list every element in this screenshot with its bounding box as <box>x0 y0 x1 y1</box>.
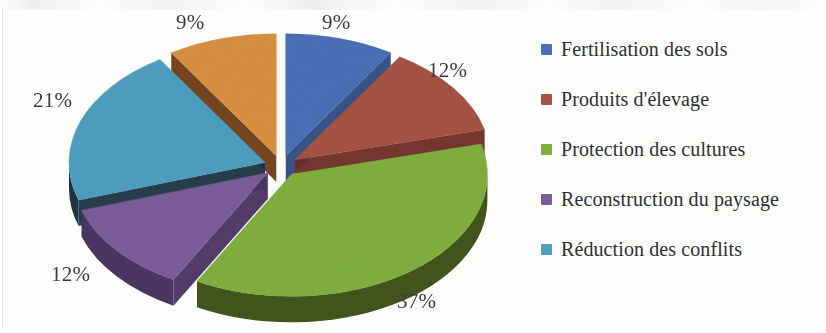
pct-label-cyan: 21% <box>33 88 72 113</box>
chart-legend: Fertilisation des solsProduits d'élevage… <box>541 24 826 274</box>
legend-item[interactable]: Réduction des conflits <box>541 224 826 274</box>
legend-swatch-icon <box>541 144 552 155</box>
pct-label-blue: 9% <box>322 10 350 35</box>
pct-label-green: 37% <box>397 289 436 314</box>
legend-item-label: Reconstruction du paysage <box>561 188 779 211</box>
legend-item-label: Produits d'élevage <box>561 88 709 111</box>
legend-item[interactable]: Fertilisation des sols <box>541 24 826 74</box>
legend-item-label: Protection des cultures <box>561 138 745 161</box>
legend-swatch-icon <box>541 44 552 55</box>
legend-item[interactable]: Protection des cultures <box>541 124 826 174</box>
legend-item[interactable]: Reconstruction du paysage <box>541 174 826 224</box>
pct-label-red: 12% <box>428 58 467 83</box>
legend-item-label: Fertilisation des sols <box>561 38 728 61</box>
pie-slices-group <box>69 34 487 323</box>
legend-swatch-icon <box>541 244 552 255</box>
pie-chart-graphic: 9% 9% 12% 37% 12% 21% <box>0 0 530 333</box>
legend-swatch-icon <box>541 194 552 205</box>
legend-swatch-icon <box>541 94 552 105</box>
legend-item[interactable]: Produits d'élevage <box>541 74 826 124</box>
pct-label-orange: 9% <box>176 10 204 35</box>
legend-item-label: Réduction des conflits <box>561 238 742 261</box>
pie-chart-figure: 9% 9% 12% 37% 12% 21% Fertilisation des … <box>0 0 826 333</box>
pct-label-purple: 12% <box>51 262 90 287</box>
